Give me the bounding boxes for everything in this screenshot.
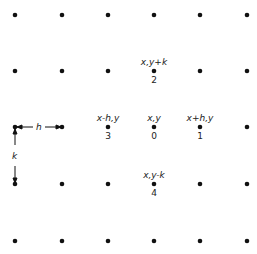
- grid-point: [152, 69, 157, 74]
- grid-point: [245, 125, 250, 130]
- grid-point: [13, 13, 18, 18]
- node-coord-label: x,y+k: [140, 57, 168, 67]
- k-label: k: [12, 151, 18, 161]
- grid-point: [60, 182, 65, 187]
- grid-point: [106, 239, 111, 244]
- h-label: h: [36, 122, 42, 132]
- grid-point: [198, 13, 203, 18]
- node-number-label: 1: [197, 131, 203, 141]
- grid-point: [13, 69, 18, 74]
- grid-point: [152, 239, 157, 244]
- node-coord-label: x,y: [146, 113, 161, 123]
- grid-point: [13, 239, 18, 244]
- grid-point: [198, 182, 203, 187]
- finite-difference-grid: h k x,y0x+h,y1x,y+k2x-h,y3x,y-k4: [0, 0, 257, 254]
- grid-point: [152, 13, 157, 18]
- grid-point: [106, 182, 111, 187]
- node-coord-label: x-h,y: [96, 113, 120, 123]
- grid-point: [245, 13, 250, 18]
- node-coord-label: x+h,y: [186, 113, 214, 123]
- grid-points: [13, 13, 250, 244]
- grid-point: [198, 125, 203, 130]
- grid-point: [60, 13, 65, 18]
- grid-point: [152, 182, 157, 187]
- grid-point: [152, 125, 157, 130]
- grid-point: [198, 69, 203, 74]
- grid-point: [245, 182, 250, 187]
- grid-point: [106, 69, 111, 74]
- node-coord-label: x,y-k: [142, 170, 165, 180]
- grid-point: [60, 239, 65, 244]
- grid-point: [60, 69, 65, 74]
- node-number-label: 2: [151, 75, 157, 85]
- node-number-label: 0: [151, 131, 157, 141]
- grid-point: [245, 69, 250, 74]
- node-number-label: 4: [151, 188, 157, 198]
- grid-point: [245, 239, 250, 244]
- node-number-label: 3: [105, 131, 111, 141]
- grid-point: [106, 13, 111, 18]
- grid-point: [198, 239, 203, 244]
- grid-point: [106, 125, 111, 130]
